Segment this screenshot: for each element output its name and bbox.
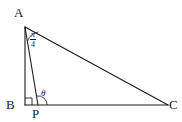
vertex-label-p: P (32, 107, 39, 120)
angle-label-a: π 4 (30, 30, 36, 49)
right-angle-marker-b (25, 98, 32, 105)
segment-ac (25, 27, 168, 105)
vertex-label-b: B (6, 98, 15, 111)
geometry-figure: A B P C π 4 θ (0, 0, 182, 122)
vertex-label-c: C (169, 98, 178, 111)
angle-label-p: θ (41, 89, 45, 98)
fraction-numerator: π (30, 30, 36, 39)
fraction-denominator: 4 (30, 40, 36, 49)
vertex-label-a: A (14, 6, 23, 19)
geometry-canvas (0, 0, 182, 122)
fraction-pi-over-four: π 4 (30, 30, 36, 49)
